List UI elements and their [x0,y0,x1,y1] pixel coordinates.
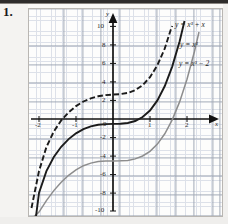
y-tick-6: 6 [102,60,106,67]
y-tick-8: 8 [102,42,106,49]
label-cubic: y = x³ [180,41,198,49]
y-tick-n4: -4 [100,153,106,160]
curve-cubic-plus-x [32,26,173,208]
graph-plot-area: 10 8 6 4 2 0 -2 -4 -6 -8 -10 -2 -1 1 2 y… [28,8,223,217]
x-tick-n2: -2 [35,122,41,129]
page-margin-right [223,4,228,224]
y-tick-2: 2 [102,97,106,104]
y-axis-label: y [106,11,109,18]
y-tick-4: 4 [102,79,106,86]
x-tick-1: 1 [148,122,152,129]
worksheet-page: 1. [0,0,228,224]
x-tick-2: 2 [185,122,189,129]
y-tick-10: 10 [97,23,104,30]
y-tick-n10: -10 [95,207,104,214]
label-cubic-plus-x: y = x³ + x [175,21,205,29]
page-margin-left [0,4,28,224]
label-cubic-minus-2: y = x³ − 2 [179,60,209,68]
page-edge-bar-shadow [0,3,228,4]
y-tick-n2: -2 [100,134,106,141]
problem-number: 1. [3,5,13,18]
y-tick-n6: -6 [100,171,106,178]
y-tick-0: 0 [103,121,107,128]
x-tick-n1: -1 [72,122,78,129]
page-margin-bottom [0,217,228,224]
x-axis-label: x [215,121,218,128]
y-tick-n8: -8 [100,190,106,197]
